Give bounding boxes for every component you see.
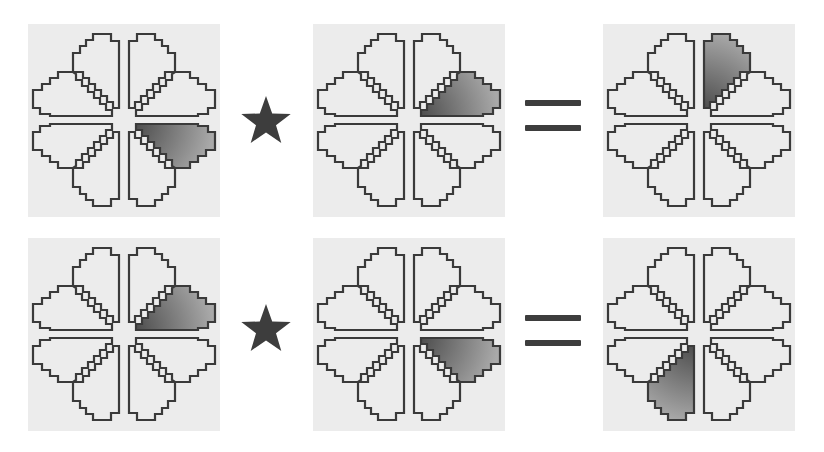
tile-background xyxy=(28,24,220,217)
tile-background xyxy=(313,24,505,217)
tile-background xyxy=(603,24,795,217)
row2-equals-icon xyxy=(525,315,581,347)
equals-bar-top xyxy=(525,315,581,321)
star-shape xyxy=(241,96,290,143)
tile-background xyxy=(603,238,795,431)
row2-star-operator-icon xyxy=(240,303,292,353)
row1-result-tile xyxy=(603,24,795,217)
row1-operand-a-tile xyxy=(28,24,220,217)
tile-background xyxy=(313,238,505,431)
equals-bar-bottom xyxy=(525,125,581,131)
row1-operand-b-tile xyxy=(313,24,505,217)
row2-operand-a-tile xyxy=(28,238,220,431)
row2-operand-b-tile xyxy=(313,238,505,431)
equals-bar-top xyxy=(525,100,581,106)
row1-star-operator-icon xyxy=(240,95,292,145)
row1-equals-icon xyxy=(525,100,581,132)
tile-background xyxy=(28,238,220,431)
star-shape xyxy=(241,304,290,351)
row2-result-tile xyxy=(603,238,795,431)
equals-bar-bottom xyxy=(525,340,581,346)
